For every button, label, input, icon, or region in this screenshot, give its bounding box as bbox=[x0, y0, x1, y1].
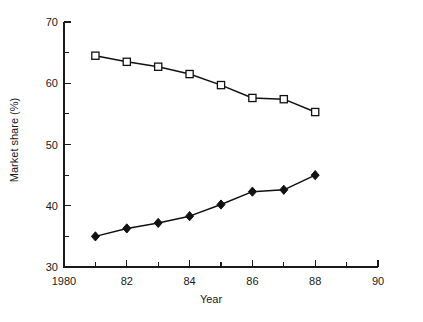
x-tick-label: 90 bbox=[372, 275, 384, 287]
x-tick-label: 82 bbox=[121, 275, 133, 287]
data-point-marker bbox=[154, 218, 162, 227]
data-point-marker bbox=[312, 108, 319, 115]
data-point-marker bbox=[249, 94, 256, 101]
y-tick-label: 60 bbox=[46, 77, 58, 89]
x-tick-label: 86 bbox=[246, 275, 258, 287]
x-axis-tick-labels: 19808284868890 bbox=[52, 275, 384, 287]
data-point-marker bbox=[123, 224, 131, 233]
data-point-marker bbox=[155, 63, 162, 70]
chart-container: 19808284868890 3040506070 Year Market sh… bbox=[0, 0, 423, 322]
y-tick-label: 30 bbox=[46, 261, 58, 273]
data-point-marker bbox=[186, 70, 193, 77]
data-point-marker bbox=[217, 200, 225, 209]
data-point-marker bbox=[217, 81, 224, 88]
x-tick-label: 1980 bbox=[52, 275, 76, 287]
y-tick-label: 50 bbox=[46, 139, 58, 151]
data-series bbox=[91, 52, 319, 241]
x-tick-label: 88 bbox=[309, 275, 321, 287]
y-tick-label: 70 bbox=[46, 16, 58, 28]
data-point-marker bbox=[248, 187, 256, 196]
y-axis-title: Market share (%) bbox=[8, 98, 20, 182]
x-tick-label: 84 bbox=[183, 275, 195, 287]
line-chart: 19808284868890 3040506070 Year Market sh… bbox=[0, 0, 423, 322]
data-point-marker bbox=[280, 96, 287, 103]
data-point-marker bbox=[280, 185, 288, 194]
y-axis-tick-labels: 3040506070 bbox=[46, 16, 58, 273]
data-point-marker bbox=[91, 232, 99, 241]
data-point-marker bbox=[311, 171, 319, 180]
series-upper-series bbox=[92, 52, 319, 116]
y-tick-label: 40 bbox=[46, 200, 58, 212]
x-axis-title: Year bbox=[200, 293, 223, 305]
data-point-marker bbox=[186, 212, 194, 221]
data-point-marker bbox=[123, 58, 130, 65]
series-lower-series bbox=[91, 171, 319, 241]
data-point-marker bbox=[92, 52, 99, 59]
